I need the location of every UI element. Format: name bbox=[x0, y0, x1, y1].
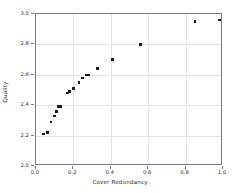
data-point bbox=[68, 90, 71, 93]
x-axis-tick-label: 0.0 bbox=[31, 169, 40, 175]
y-axis-tick-label: 2.2 bbox=[20, 132, 29, 138]
x-axis-tick-label: 0.6 bbox=[143, 169, 152, 175]
x-axis-tick-label: 0.2 bbox=[68, 169, 77, 175]
grid-line-horizontal bbox=[36, 44, 221, 45]
grid-line-horizontal bbox=[36, 105, 221, 106]
x-axis-tick-label: 1.0 bbox=[218, 169, 227, 175]
data-point bbox=[139, 43, 142, 46]
y-axis-tick-label: 2.6 bbox=[20, 71, 29, 77]
data-point bbox=[218, 19, 221, 22]
y-axis-tick-label: 2.8 bbox=[20, 40, 29, 46]
grid-line-horizontal bbox=[36, 136, 221, 137]
grid-line-vertical bbox=[111, 14, 112, 164]
y-axis-tick-label: 3.0 bbox=[20, 10, 29, 16]
y-axis-tick-label: 2.4 bbox=[20, 101, 29, 107]
data-point bbox=[55, 110, 58, 113]
data-point bbox=[59, 105, 62, 108]
y-axis-tick bbox=[31, 74, 34, 75]
x-axis-title: Cover Redundancy bbox=[0, 179, 240, 185]
data-point bbox=[78, 81, 81, 84]
data-point bbox=[42, 133, 45, 136]
y-axis-tick-label: 2.0 bbox=[20, 162, 29, 168]
y-axis-tick bbox=[31, 165, 34, 166]
x-axis-tick-label: 0.8 bbox=[180, 169, 189, 175]
grid-line-vertical bbox=[186, 14, 187, 164]
data-point bbox=[96, 67, 99, 70]
y-axis-tick bbox=[31, 135, 34, 136]
data-point bbox=[50, 121, 53, 124]
y-axis-tick bbox=[31, 13, 34, 14]
grid-line-horizontal bbox=[36, 75, 221, 76]
y-axis-tick bbox=[31, 43, 34, 44]
data-point bbox=[53, 115, 56, 118]
data-point bbox=[87, 74, 90, 77]
data-point bbox=[46, 131, 49, 134]
y-axis-title: Quality bbox=[2, 81, 8, 102]
scatter-chart-figure: Cover Redundancy Quality 0.00.20.40.60.8… bbox=[0, 0, 240, 193]
data-point bbox=[81, 77, 84, 80]
grid-line-vertical bbox=[148, 14, 149, 164]
data-point bbox=[72, 87, 75, 90]
x-axis-tick-label: 0.4 bbox=[106, 169, 115, 175]
y-axis-tick bbox=[31, 104, 34, 105]
plot-area bbox=[35, 13, 222, 165]
data-point bbox=[111, 58, 114, 61]
data-point bbox=[194, 20, 197, 23]
